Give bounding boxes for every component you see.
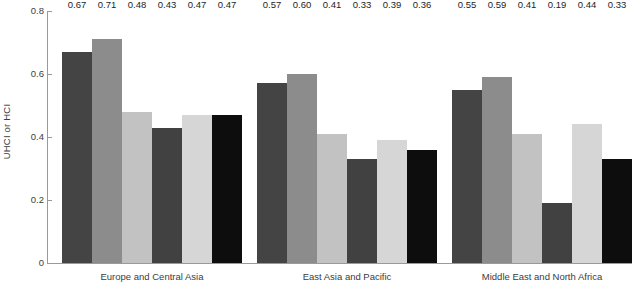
bar[interactable]: 0.47 <box>182 115 212 263</box>
x-axis-group-label: Europe and Central Asia <box>62 272 242 282</box>
bar[interactable]: 0.59 <box>482 77 512 263</box>
bar-group: 0.550.590.410.190.440.33 <box>452 11 632 263</box>
bar-slot: 0.47 <box>212 11 242 263</box>
bar[interactable]: 0.47 <box>212 115 242 263</box>
bar-slot: 0.33 <box>602 11 632 263</box>
bar-value-label: 0.71 <box>98 0 117 9</box>
bar-slot: 0.57 <box>257 11 287 263</box>
x-axis-line <box>47 263 632 264</box>
y-axis-tick-label: 0 <box>16 258 44 268</box>
bar-slot: 0.43 <box>152 11 182 263</box>
bar-slot: 0.67 <box>62 11 92 263</box>
y-axis-tick-label-wrap: 0.8 <box>0 11 44 12</box>
bar-slot: 0.47 <box>182 11 212 263</box>
bar[interactable]: 0.55 <box>452 90 482 263</box>
bar-value-label: 0.55 <box>458 0 477 9</box>
bar-value-label: 0.19 <box>548 0 567 9</box>
bar-slot: 0.41 <box>512 11 542 263</box>
y-axis-tick-label: 0.6 <box>16 69 44 79</box>
bar-slot: 0.48 <box>122 11 152 263</box>
bar-slot: 0.39 <box>377 11 407 263</box>
bar-slot: 0.41 <box>317 11 347 263</box>
bar-value-label: 0.57 <box>263 0 282 9</box>
bar-group: 0.570.600.410.330.390.36 <box>257 11 437 263</box>
bar[interactable]: 0.43 <box>152 128 182 263</box>
y-axis-tick-label-wrap: 0.6 <box>0 74 44 75</box>
y-axis-tick-label-wrap: 0 <box>0 263 44 264</box>
x-axis-group-label: Middle East and North Africa <box>452 272 632 282</box>
bar-value-label: 0.60 <box>293 0 312 9</box>
bar-value-label: 0.41 <box>518 0 537 9</box>
bar[interactable]: 0.67 <box>62 52 92 263</box>
bar-value-label: 0.44 <box>578 0 597 9</box>
bar[interactable]: 0.33 <box>347 159 377 263</box>
bar-slot: 0.59 <box>482 11 512 263</box>
bar[interactable]: 0.60 <box>287 74 317 263</box>
bar-value-label: 0.48 <box>128 0 147 9</box>
y-axis-title: UHCI or HCI <box>0 0 14 262</box>
y-axis-title-text: UHCI or HCI <box>2 103 13 159</box>
bar-value-label: 0.39 <box>383 0 402 9</box>
y-axis-tick <box>47 263 52 264</box>
bar-value-label: 0.33 <box>608 0 627 9</box>
y-axis-tick-label: 0.4 <box>16 132 44 142</box>
bar[interactable]: 0.41 <box>317 134 347 263</box>
bar[interactable]: 0.19 <box>542 203 572 263</box>
bar[interactable]: 0.71 <box>92 39 122 263</box>
bar-slot: 0.60 <box>287 11 317 263</box>
bar-value-label: 0.33 <box>353 0 372 9</box>
plot-area: 0.670.710.480.430.470.470.570.600.410.33… <box>48 11 632 263</box>
bar-slot: 0.36 <box>407 11 437 263</box>
bar[interactable]: 0.41 <box>512 134 542 263</box>
x-axis-group-label: East Asia and Pacific <box>257 272 437 282</box>
bar-chart: UHCI or HCI 00.20.40.60.8 0.670.710.480.… <box>0 0 637 292</box>
bar[interactable]: 0.36 <box>407 150 437 263</box>
bar-group: 0.670.710.480.430.470.47 <box>62 11 242 263</box>
bar-value-label: 0.43 <box>158 0 177 9</box>
bar[interactable]: 0.48 <box>122 112 152 263</box>
bar-slot: 0.44 <box>572 11 602 263</box>
bar-value-label: 0.41 <box>323 0 342 9</box>
bar[interactable]: 0.33 <box>602 159 632 263</box>
bar[interactable]: 0.44 <box>572 124 602 263</box>
y-axis-tick-label: 0.2 <box>16 195 44 205</box>
bar-slot: 0.55 <box>452 11 482 263</box>
bar-value-label: 0.47 <box>188 0 207 9</box>
bar-slot: 0.71 <box>92 11 122 263</box>
y-axis-tick-label: 0.8 <box>16 6 44 16</box>
bar-value-label: 0.67 <box>68 0 87 9</box>
bar-value-label: 0.36 <box>413 0 432 9</box>
y-axis-tick-label-wrap: 0.2 <box>0 200 44 201</box>
bar[interactable]: 0.39 <box>377 140 407 263</box>
bar-value-label: 0.47 <box>218 0 237 9</box>
y-axis-tick-label-wrap: 0.4 <box>0 137 44 138</box>
bar[interactable]: 0.57 <box>257 83 287 263</box>
bar-value-label: 0.59 <box>488 0 507 9</box>
bar-slot: 0.19 <box>542 11 572 263</box>
bar-slot: 0.33 <box>347 11 377 263</box>
